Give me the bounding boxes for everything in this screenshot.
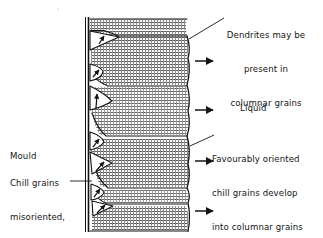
favourably-label-line-2: chill grains develop — [212, 188, 323, 199]
columnar-grain-bands — [90, 20, 189, 231]
scan-speck — [57, 8, 59, 10]
chill-grains-label: Chill grains misoriented, so growth is s… — [10, 155, 82, 238]
dendrites-label-line-2: present in — [212, 64, 320, 75]
favourably-label-line-1: Favourably oriented — [212, 154, 323, 165]
liquid-label: Liquid — [240, 80, 267, 126]
chill-label-line-2: misoriented, — [10, 212, 82, 223]
chill-label-line-1: Chill grains — [10, 178, 82, 189]
grain-band-5 — [94, 190, 188, 203]
liquid-label-line-1: Liquid — [240, 103, 267, 114]
favourably-oriented-label: Favourably oriented chill grains develop… — [212, 131, 323, 238]
favourably-label-line-3: into columnar grains — [212, 222, 323, 233]
grain-band-3 — [92, 87, 188, 135]
dendrites-label-line-1: Dendrites may be — [212, 30, 320, 41]
grain-band-1 — [90, 20, 186, 31]
